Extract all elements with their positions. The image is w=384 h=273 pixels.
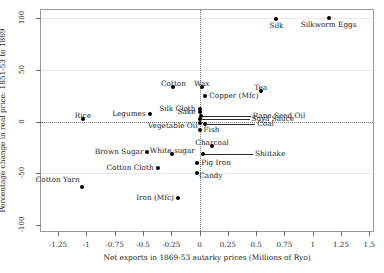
x-axis-tick-mark bbox=[341, 231, 342, 236]
data-point-marker[interactable] bbox=[198, 121, 202, 125]
y-axis-tick-label: -50 bbox=[17, 160, 26, 186]
zero-line-horizontal bbox=[41, 122, 373, 123]
y-axis-tick-label: -100 bbox=[17, 211, 26, 237]
y-axis-tick-mark bbox=[36, 225, 41, 226]
y-axis-tick-mark bbox=[36, 122, 41, 123]
x-axis-tick-mark bbox=[115, 231, 116, 236]
data-point-marker[interactable] bbox=[201, 152, 205, 156]
x-axis-tick-mark bbox=[171, 231, 172, 236]
x-axis-tick-mark bbox=[369, 231, 370, 236]
label-leader-line bbox=[203, 116, 251, 117]
y-axis-tick-mark bbox=[36, 18, 41, 19]
data-point-label: Cotton bbox=[161, 80, 186, 88]
data-point-marker[interactable] bbox=[156, 166, 160, 170]
y-axis-tick-label: 100 bbox=[17, 5, 26, 31]
data-point-marker[interactable] bbox=[176, 196, 180, 200]
data-point-label: Vegetable Oil bbox=[148, 122, 197, 130]
gridline-y bbox=[41, 70, 373, 71]
data-point-marker[interactable] bbox=[198, 128, 202, 132]
data-point-label: Charcoal bbox=[195, 139, 228, 147]
y-axis-tick-label: 50 bbox=[17, 56, 26, 82]
data-point-label: Silk bbox=[269, 22, 283, 30]
scatter-chart-figure: Percentage change in real price: 1851-53… bbox=[0, 0, 384, 273]
data-point-label: Fish bbox=[204, 126, 220, 134]
data-point-label: Sake bbox=[177, 108, 195, 116]
data-point-label: Candy bbox=[199, 172, 222, 180]
x-axis-tick-mark bbox=[313, 231, 314, 236]
label-leader-line bbox=[202, 119, 250, 120]
x-axis-tick-mark bbox=[143, 231, 144, 236]
data-point-label: Legumes bbox=[112, 110, 146, 118]
x-axis-tick-label: 1.5 bbox=[349, 240, 384, 249]
y-axis-tick-mark bbox=[36, 70, 41, 71]
data-point-label: Rice bbox=[75, 112, 91, 120]
data-point-label: Brown Sugar bbox=[95, 148, 144, 156]
data-point-marker[interactable] bbox=[203, 94, 207, 98]
x-axis-tick-mark bbox=[200, 231, 201, 236]
data-point-marker[interactable] bbox=[148, 112, 152, 116]
data-point-label: White sugar bbox=[150, 147, 195, 155]
x-axis-tick-mark bbox=[284, 231, 285, 236]
y-axis-tick-label: 0 bbox=[17, 108, 26, 134]
data-point-label: Silkworm Eggs bbox=[301, 21, 357, 29]
x-axis-tick-mark bbox=[58, 231, 59, 236]
data-point-label: Cotton Cloth bbox=[106, 164, 153, 172]
data-point-label: Coal bbox=[257, 120, 274, 128]
x-axis-tick-mark bbox=[228, 231, 229, 236]
y-axis-title: Percentage change in real price: 1851-53… bbox=[0, 9, 10, 232]
data-point-marker[interactable] bbox=[80, 185, 84, 189]
data-point-label: Iron (Mfc) bbox=[136, 194, 174, 202]
x-axis-tick-mark bbox=[86, 231, 87, 236]
data-point-label: Cotton Yarn bbox=[36, 176, 80, 184]
plot-area: 100500-50-100 -1.25-1-0.75-0.5-0.2500.25… bbox=[40, 9, 374, 232]
label-leader-line bbox=[205, 154, 253, 155]
x-axis-title: Net exports in 1869-53 autarky prices (M… bbox=[40, 253, 374, 262]
data-point-label: Shiitake bbox=[255, 150, 285, 158]
gridline-y bbox=[41, 18, 373, 19]
data-point-label: Pig Iron bbox=[201, 159, 231, 167]
data-point-label: Wax bbox=[194, 80, 209, 88]
data-point-label: Copper (Mfc) bbox=[209, 92, 258, 100]
x-axis-tick-mark bbox=[256, 231, 257, 236]
